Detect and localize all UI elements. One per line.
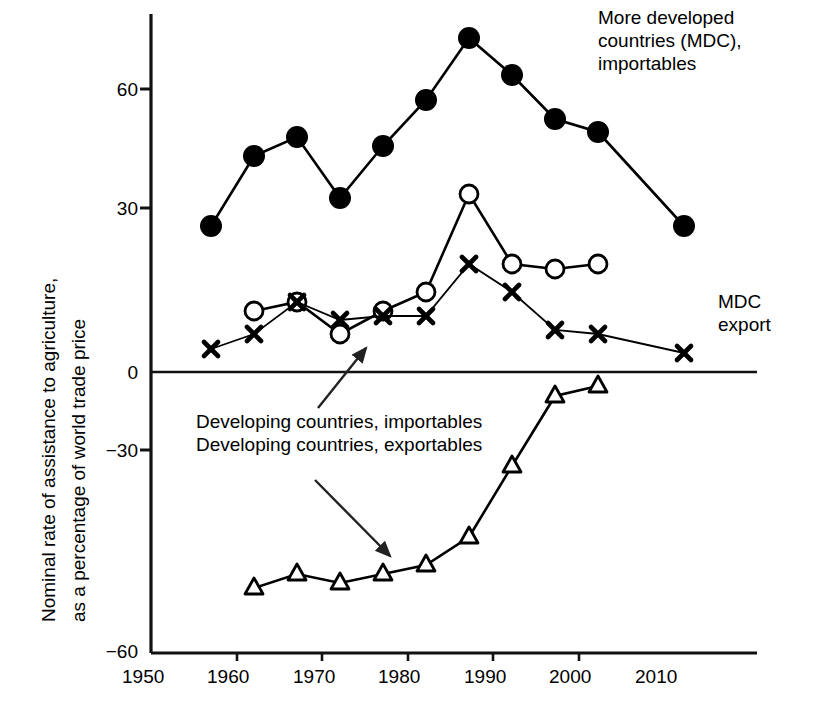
series-developing-exportables (245, 376, 607, 594)
annotation-arrows (315, 348, 390, 556)
series-mdc-export (204, 257, 691, 360)
series-developing-importables (245, 185, 607, 343)
chart-container: Nominal rate of assistance to agricultur… (0, 0, 813, 708)
plot-area (0, 0, 813, 708)
y-axis-ticks (140, 89, 151, 450)
series-mdc-importables (200, 27, 695, 237)
axis-spines (151, 14, 757, 653)
arrow-developing-exportables (315, 480, 390, 556)
arrow-developing-importables (318, 348, 366, 408)
